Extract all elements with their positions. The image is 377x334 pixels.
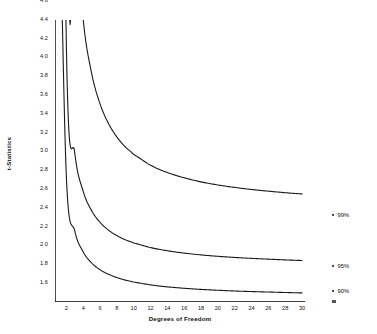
t-statistics-chart: 1.61.82.02.22.42.62.83.03.23.43.63.84.04… <box>0 0 377 334</box>
y-axis-tick-label: 2.4 <box>40 204 48 210</box>
stray-mark <box>332 300 336 303</box>
y-axis-tick-label: 2.0 <box>40 241 48 247</box>
legend-marker-icon <box>332 265 334 267</box>
legend-label: 95% <box>337 263 349 269</box>
y-axis-tick-label: 2.2 <box>40 223 48 229</box>
y-axis-tick-label: 3.6 <box>40 91 48 97</box>
x-axis-tick-label: 20 <box>215 305 221 311</box>
y-axis-tick-label: 4.6 <box>40 0 48 3</box>
curve-95pct <box>62 20 302 260</box>
x-axis-tick-label: 30 <box>299 305 305 311</box>
x-axis-tick-label: 16 <box>181 305 187 311</box>
x-axis-tick-label: 24 <box>248 305 254 311</box>
legend-marker-icon <box>332 214 334 216</box>
y-axis-tick-label: 1.8 <box>40 260 48 266</box>
plot-svg <box>55 20 305 302</box>
y-axis-tick-label: 4.4 <box>40 16 48 22</box>
legend-item: 95% <box>332 263 349 269</box>
y-axis-tick-label: 3.4 <box>40 110 48 116</box>
legend-marker-icon <box>332 290 334 292</box>
curve-90pct <box>58 20 302 293</box>
x-axis-tick-label: 12 <box>147 305 153 311</box>
legend-item: 99% <box>332 212 349 218</box>
y-axis-tick-label: 4.0 <box>40 53 48 59</box>
x-axis-tick-label: 26 <box>265 305 271 311</box>
plot-area <box>55 20 305 302</box>
y-axis-tick-label: 1.6 <box>40 279 48 285</box>
x-axis-tick-label: 14 <box>164 305 170 311</box>
x-axis-tick-label: 2 <box>65 305 68 311</box>
x-axis-tick-label: 4 <box>82 305 85 311</box>
y-axis-tick-label: 3.0 <box>40 147 48 153</box>
legend-label: 90% <box>337 288 349 294</box>
curve-group <box>58 20 302 293</box>
legend-label: 99% <box>337 212 349 218</box>
x-axis-tick-label: 10 <box>131 305 137 311</box>
x-axis-tick-label: 8 <box>115 305 118 311</box>
y-axis-tick-label: 4.2 <box>40 35 48 41</box>
y-axis-tick-label: 2.6 <box>40 185 48 191</box>
y-axis-tick-label: 3.2 <box>40 129 48 135</box>
x-axis-tick-label: 6 <box>99 305 102 311</box>
axes <box>55 20 305 302</box>
x-axis-tick-label: 22 <box>232 305 238 311</box>
legend-item: 90% <box>332 288 349 294</box>
y-axis-title: t-Statistics <box>5 128 12 180</box>
y-axis-tick-label: 2.8 <box>40 166 48 172</box>
legend: 99%95%90% <box>330 0 377 334</box>
x-axis-title: Degrees of Freedom <box>55 315 305 322</box>
x-axis-tick-label: 28 <box>282 305 288 311</box>
y-axis-tick-label: 3.8 <box>40 72 48 78</box>
curve-99pct <box>67 20 302 194</box>
x-axis-tick-label: 18 <box>198 305 204 311</box>
